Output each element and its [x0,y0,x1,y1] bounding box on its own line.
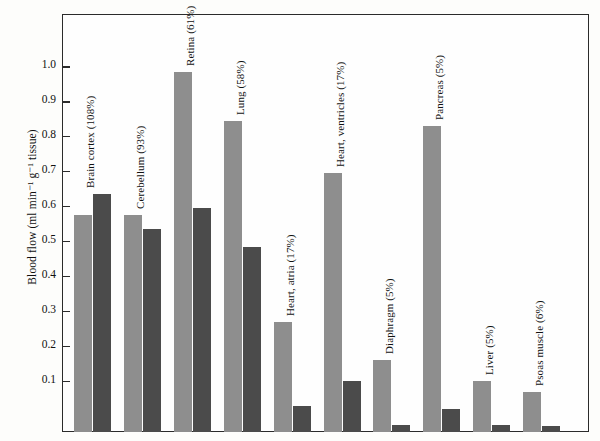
bar-dark-series [492,425,510,432]
bar-group: Liver (5%) [473,14,523,432]
blood-flow-bar-chart: Blood flow (ml min⁻¹ g⁻¹ tissue) 0.10.20… [0,0,600,441]
bar-light-series [274,322,292,432]
bar-light-series [174,72,192,432]
bar-dark-series [293,406,311,432]
bar-dark-series [243,247,261,432]
bar-light-series [523,392,541,432]
bar-group-label: Liver (5%) [483,326,495,376]
bar-group: Brain cortex (108%) [74,14,124,432]
bar-dark-series [442,409,460,432]
bar-dark-series [93,194,111,432]
bar-light-series [473,381,491,432]
bar-light-series [423,126,441,432]
y-tick-label: 1.0 [22,58,56,70]
bar-group: Lung (58%) [224,14,274,432]
bar-group-label: Heart, atria (17%) [284,234,296,316]
y-tick-label: 0.5 [22,233,56,245]
bar-group: Pancreas (5%) [423,14,473,432]
bar-dark-series [392,425,410,432]
bar-dark-series [143,229,161,432]
bar-light-series [74,215,92,432]
bar-group-label: Lung (58%) [234,60,246,114]
bar-dark-series [542,426,560,432]
bar-group-label: Heart, ventricles (17%) [334,62,346,167]
bar-group: Diaphragm (5%) [373,14,423,432]
bar-group-label: Psoas muscle (6%) [533,300,545,385]
bar-group-label: Retina (61%) [184,5,196,65]
bars-layer: Brain cortex (108%)Cerebellum (93%)Retin… [62,14,589,432]
y-tick-label: 0.1 [22,373,56,385]
bar-light-series [224,121,242,432]
y-tick-label: 0.4 [22,268,56,280]
y-tick-label: 0.7 [22,163,56,175]
bar-dark-series [193,208,211,432]
bar-group: Heart, atria (17%) [274,14,324,432]
y-tick-label: 0.3 [22,303,56,315]
bar-light-series [124,215,142,432]
bar-light-series [324,173,342,432]
bar-group: Psoas muscle (6%) [523,14,573,432]
bar-group-label: Brain cortex (108%) [84,96,96,188]
bar-group: Heart, ventricles (17%) [324,14,374,432]
y-tick-label: 0.9 [22,93,56,105]
bar-group: Retina (61%) [174,14,224,432]
bar-light-series [373,360,391,432]
bar-group-label: Pancreas (5%) [433,55,445,120]
bar-group: Cerebellum (93%) [124,14,174,432]
bar-group-label: Cerebellum (93%) [134,126,146,209]
y-tick-label: 0.6 [22,198,56,210]
bar-group-label: Diaphragm (5%) [383,279,395,355]
y-tick-label: 0.8 [22,128,56,140]
bar-dark-series [343,381,361,432]
y-tick-label: 0.2 [22,338,56,350]
